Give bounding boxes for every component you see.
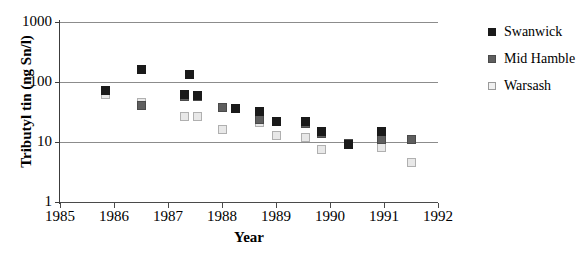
y-tick-label: 1000	[0, 14, 52, 29]
data-point	[377, 143, 386, 152]
x-tick-label: 1986	[84, 209, 144, 224]
data-point	[137, 65, 146, 74]
legend-swatch-icon	[488, 55, 496, 63]
y-tick-label: 10	[0, 134, 52, 149]
y-tick-label: 100	[0, 74, 52, 89]
data-point	[218, 103, 227, 112]
chart-legend: SwanwickMid HambleWarsash	[488, 18, 581, 99]
x-tick-label: 1989	[246, 209, 306, 224]
data-point	[407, 135, 416, 144]
data-point	[101, 86, 110, 95]
data-point	[407, 158, 416, 167]
data-point	[272, 131, 281, 140]
legend-item: Warsash	[488, 72, 581, 99]
data-point	[193, 91, 202, 100]
x-axis-title: Year	[60, 229, 438, 246]
data-point	[180, 112, 189, 121]
x-tick-label: 1990	[300, 209, 360, 224]
legend-swatch-icon	[488, 28, 496, 36]
data-point	[255, 107, 264, 116]
legend-item: Mid Hamble	[488, 45, 581, 72]
data-point	[218, 125, 227, 134]
tbt-scatter-chart: Tributyl tin (ng Sn/l) Year 1101001000 1…	[0, 0, 581, 259]
data-point	[301, 117, 310, 126]
x-axis-line	[59, 202, 438, 203]
data-point	[301, 133, 310, 142]
legend-swatch-icon	[488, 82, 496, 90]
data-point	[180, 90, 189, 99]
data-point-layer	[60, 22, 438, 202]
data-point	[377, 127, 386, 136]
y-axis-title: Tributyl tin (ng Sn/l)	[18, 7, 35, 197]
data-point	[272, 117, 281, 126]
y-tick-label: 1	[0, 194, 52, 209]
data-point	[317, 127, 326, 136]
data-point	[377, 135, 386, 144]
legend-label: Warsash	[504, 78, 551, 94]
x-tick-label: 1987	[138, 209, 198, 224]
legend-item: Swanwick	[488, 18, 581, 45]
x-tick-label: 1991	[354, 209, 414, 224]
data-point	[193, 112, 202, 121]
data-point	[344, 140, 353, 149]
legend-label: Mid Hamble	[504, 51, 575, 67]
legend-label: Swanwick	[504, 24, 562, 40]
x-tick-label: 1985	[30, 209, 90, 224]
data-point	[185, 70, 194, 79]
x-tick-label: 1988	[192, 209, 252, 224]
data-point	[137, 101, 146, 110]
data-point	[317, 145, 326, 154]
data-point	[231, 104, 240, 113]
x-tick-label: 1992	[408, 209, 468, 224]
